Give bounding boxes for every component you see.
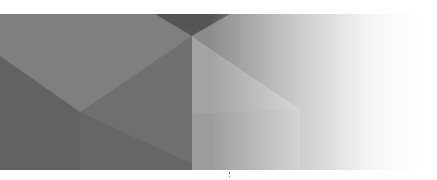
marker-dot <box>229 172 230 174</box>
marker-dot <box>229 176 230 177</box>
hero-banner <box>0 14 437 170</box>
gradient-fade-overlay <box>0 14 437 170</box>
